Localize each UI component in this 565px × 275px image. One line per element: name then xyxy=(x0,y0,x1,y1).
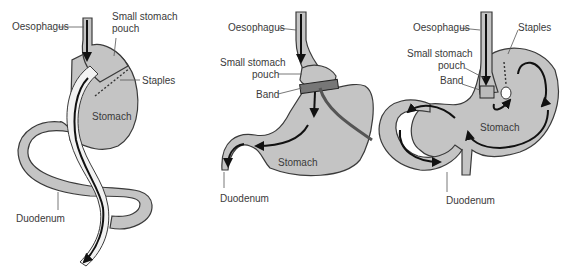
label-stomach-1: Stomach xyxy=(92,111,131,122)
oesophagus-shape xyxy=(296,12,318,72)
gastric-band-diagram: Oesophagus Small stomach pouch Band Stom… xyxy=(220,12,373,204)
label-band-3: Band xyxy=(440,75,463,86)
stoma xyxy=(501,87,511,99)
label-stomach-3: Stomach xyxy=(480,122,519,133)
label-stomach-2: Stomach xyxy=(278,157,317,168)
label-staples-3: Staples xyxy=(518,22,551,33)
label-duodenum-2: Duodenum xyxy=(220,193,269,204)
vbg-diagram: Oesophagus Staples Small stomach pouch B… xyxy=(379,12,558,206)
band xyxy=(480,86,494,98)
label-pouch-1b: pouch xyxy=(112,23,139,34)
label-pouch-2b: pouch xyxy=(252,69,279,80)
label-oesophagus-3: Oesophagus xyxy=(413,22,470,33)
label-pouch-3a: Small stomach xyxy=(407,48,473,59)
label-pouch-2a: Small stomach xyxy=(220,57,286,68)
label-staples-1: Staples xyxy=(142,75,175,86)
label-pouch-1a: Small stomach xyxy=(112,11,178,22)
label-oesophagus-1: Oesophagus xyxy=(12,21,69,32)
label-pouch-3b: pouch xyxy=(438,60,465,71)
label-duodenum-3: Duodenum xyxy=(446,195,495,206)
label-duodenum-1: Duodenum xyxy=(16,213,65,224)
gastric-bypass-diagram: Oesophagus Small stomach pouch Staples S… xyxy=(12,11,178,266)
label-oesophagus-2: Oesophagus xyxy=(228,22,285,33)
label-band-2: Band xyxy=(256,89,279,100)
